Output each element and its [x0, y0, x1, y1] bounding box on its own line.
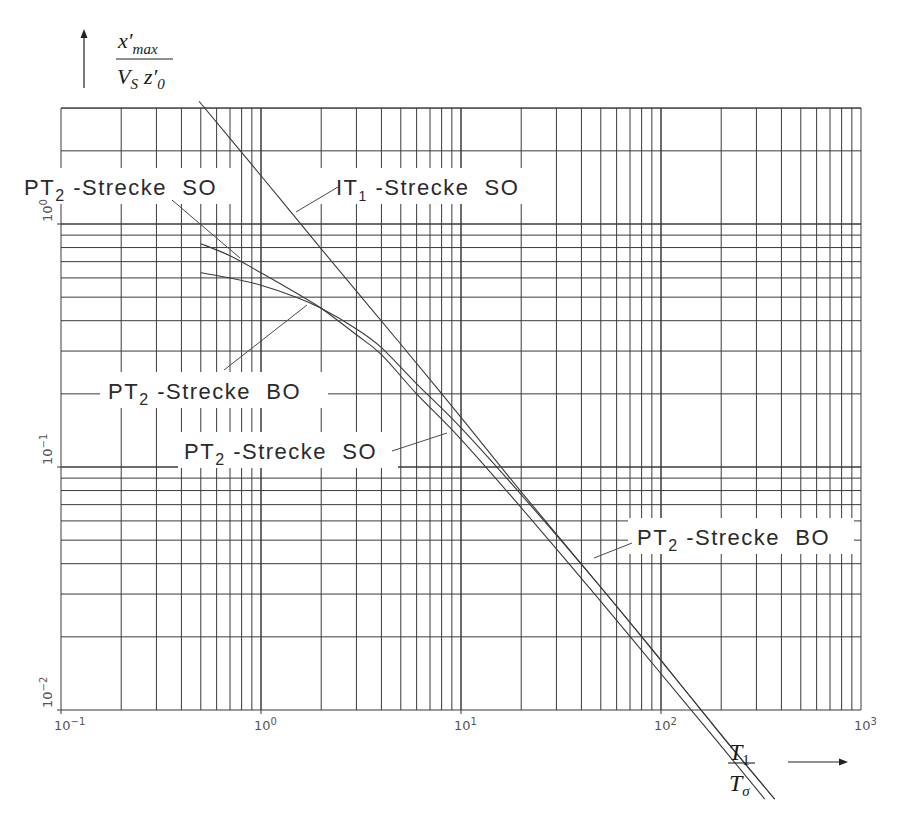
log-log-chart: PT2 -Strecke SO IT1 -Strecke SO PT2 -Str… [0, 0, 906, 823]
x-axis-arrow-head-icon [839, 759, 848, 766]
x-tick-label: 100 [254, 716, 277, 733]
leader-mid-bo [224, 305, 307, 370]
x-tick-label: 102 [654, 716, 677, 733]
label-masks [14, 168, 854, 554]
label-pt2-bo-mid: PT2 -Strecke BO [108, 379, 301, 408]
x-label-numerator: T1 [729, 739, 750, 768]
x-tick-label: 103 [854, 716, 877, 733]
label-pt2-so-mid: PT2 -Strecke SO [184, 439, 377, 468]
y-label-denominator: VSz′0 [117, 64, 165, 92]
y-axis-title: x′max VSz′0 [81, 28, 174, 92]
x-label-denominator: Tσ [729, 770, 750, 799]
x-tick-label: 101 [454, 716, 477, 733]
y-axis-arrow-head-icon [81, 29, 88, 38]
label-pt2-bo-right: PT2 -Strecke BO [637, 525, 830, 554]
x-axis-title: T1 Tσ [728, 739, 848, 799]
leader-mid-so [392, 433, 447, 451]
y-label-numerator: x′max [117, 28, 158, 57]
y-tick-label: 10−1 [38, 434, 55, 465]
y-tick-label: 10−2 [38, 677, 55, 708]
tick-labels: 10−110010110210310−210−1100 [38, 199, 877, 733]
leader-right-bo [594, 543, 632, 558]
label-pt2-so-top: PT2 -Strecke SO [24, 175, 217, 204]
x-tick-label: 10−1 [54, 716, 85, 733]
